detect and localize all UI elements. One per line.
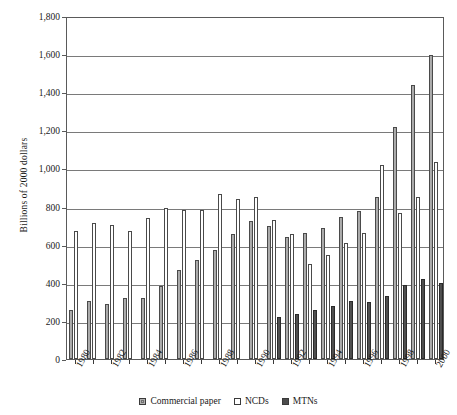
bar-ncds-1996 — [362, 233, 366, 359]
bar-commercial-paper-1984 — [141, 298, 145, 359]
bar-ncds-1990 — [254, 197, 258, 359]
bar-commercial-paper-1996 — [357, 211, 361, 359]
bar-chart-figure: Billions of 2000 dollars 02004006008001,… — [0, 0, 457, 415]
bar-ncds-1986 — [182, 210, 186, 359]
y-axis-tick-label: 1,600 — [8, 50, 60, 60]
bar-mtns-1993 — [313, 310, 317, 359]
legend-entry-commercial-paper[interactable]: Commercial paper — [139, 396, 220, 406]
bar-commercial-paper-1982 — [105, 304, 109, 359]
bar-commercial-paper-1995 — [339, 217, 343, 359]
bar-ncds-1983 — [128, 231, 132, 359]
bar-ncds-1992 — [290, 234, 294, 359]
legend-swatch-icon-mtn — [282, 398, 289, 405]
bar-ncds-1998 — [398, 213, 402, 359]
bar-mtns-1991 — [277, 317, 281, 359]
bar-ncds-2000 — [434, 162, 438, 359]
y-axis-tick-label: 400 — [8, 279, 60, 289]
y-axis-tick-label: 800 — [8, 203, 60, 213]
bar-mtns-1997 — [385, 296, 389, 359]
bar-commercial-paper-1987 — [195, 260, 199, 359]
bar-mtns-1999 — [421, 279, 425, 359]
bar-ncds-1988 — [218, 194, 222, 359]
bar-ncds-1980 — [74, 231, 78, 359]
bar-commercial-paper-2000 — [429, 55, 433, 359]
bar-commercial-paper-1991 — [267, 226, 271, 359]
bar-ncds-1987 — [200, 210, 204, 359]
bar-ncds-1993 — [308, 264, 312, 359]
chart-legend: Commercial paperNCDsMTNs — [0, 396, 457, 406]
y-axis-tick-label: 600 — [8, 241, 60, 251]
bar-ncds-1982 — [110, 225, 114, 359]
y-axis-tick-label: 1,000 — [8, 164, 60, 174]
bar-series-container — [67, 18, 443, 359]
bar-commercial-paper-1990 — [249, 221, 253, 359]
legend-swatch-icon-ncd — [234, 398, 241, 405]
bar-commercial-paper-1998 — [393, 127, 397, 359]
y-axis-tick-label: 1,200 — [8, 126, 60, 136]
bar-ncds-1997 — [380, 165, 384, 359]
y-axis-tick-label: 0 — [8, 355, 60, 365]
bar-ncds-1984 — [146, 218, 150, 359]
y-axis-tick-label: 200 — [8, 317, 60, 327]
bar-commercial-paper-1986 — [177, 270, 181, 359]
bar-commercial-paper-1980 — [69, 310, 73, 359]
bar-commercial-paper-1985 — [159, 286, 163, 359]
legend-label: MTNs — [293, 396, 318, 406]
bar-ncds-1985 — [164, 208, 168, 359]
y-axis-tick-label: 1,800 — [8, 12, 60, 22]
bar-commercial-paper-1988 — [213, 250, 217, 359]
bar-ncds-1995 — [344, 243, 348, 359]
bar-ncds-1989 — [236, 199, 240, 359]
x-axis-tick-labels: 1980198219841986198819901992199419961998… — [66, 364, 444, 398]
bar-commercial-paper-1999 — [411, 85, 415, 359]
legend-entry-mtns[interactable]: MTNs — [282, 396, 318, 406]
bar-commercial-paper-1989 — [231, 234, 235, 359]
legend-label: Commercial paper — [150, 396, 220, 406]
bar-commercial-paper-1992 — [285, 237, 289, 359]
bar-ncds-1999 — [416, 197, 420, 359]
bar-commercial-paper-1994 — [321, 228, 325, 359]
y-axis-tick-label: 1,400 — [8, 88, 60, 98]
legend-entry-ncds[interactable]: NCDs — [234, 396, 269, 406]
legend-swatch-icon-cp — [139, 398, 146, 405]
bar-mtns-1995 — [349, 301, 353, 359]
bar-commercial-paper-1993 — [303, 233, 307, 359]
bar-ncds-1981 — [92, 223, 96, 359]
bar-ncds-1991 — [272, 220, 276, 359]
bar-ncds-1994 — [326, 255, 330, 359]
plot-area — [66, 17, 444, 360]
bar-commercial-paper-1997 — [375, 197, 379, 359]
legend-label: NCDs — [245, 396, 269, 406]
